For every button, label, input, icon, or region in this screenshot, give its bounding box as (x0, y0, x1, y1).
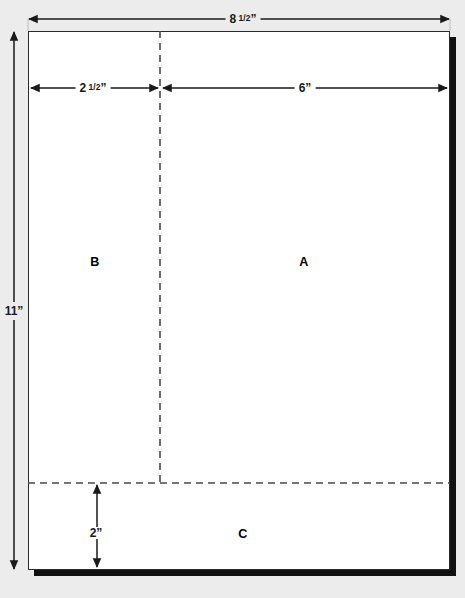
dimension-fraction-column-b: 1/2 (86, 82, 100, 92)
dimension-unit-width-top: ” (250, 12, 256, 26)
dimension-whole-column-b: 2 (80, 81, 87, 95)
zone-label-b: B (90, 255, 99, 269)
dimension-fraction-width-top: 1/2 (236, 13, 250, 23)
diagram-vector-layer (0, 0, 465, 598)
dimension-label-column-b: 2 1/2” (76, 82, 111, 94)
zone-label-c: C (238, 527, 247, 541)
dimension-diagram: A B C 8 1/2” 11” 2 1/2” 6” 2” (0, 0, 465, 598)
dimension-label-bottom-band: 2” (86, 527, 107, 539)
dimension-label-column-a: 6” (295, 82, 316, 94)
zone-label-a: A (299, 255, 308, 269)
dimension-unit-column-b: ” (100, 81, 106, 95)
dimension-label-width-top: 8 1/2” (226, 13, 261, 25)
dimension-whole-width-top: 8 (230, 12, 237, 26)
dimension-label-height-left: 11” (4, 302, 25, 320)
